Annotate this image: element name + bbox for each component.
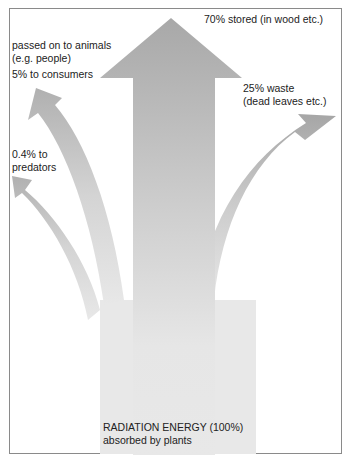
animals-header: passed on to animals (e.g. people) <box>12 39 111 65</box>
waste-arrow <box>196 114 336 305</box>
radiation-source-line1: RADIATION ENERGY (100%) <box>103 421 243 434</box>
animals-header-line1: passed on to animals <box>12 39 111 52</box>
radiation-source-label: RADIATION ENERGY (100%) absorbed by plan… <box>103 421 243 447</box>
predators-label-line1: 0.4% to <box>12 148 56 161</box>
stored-label: 70% stored (in wood etc.) <box>204 13 323 26</box>
predators-label-line2: predators <box>12 161 56 174</box>
consumers-label: 5% to consumers <box>12 68 93 81</box>
animals-header-line2: (e.g. people) <box>12 52 111 65</box>
waste-label-line1: 25% waste <box>243 82 326 95</box>
radiation-source-line2: absorbed by plants <box>103 434 243 447</box>
waste-label: 25% waste (dead leaves etc.) <box>243 82 326 108</box>
waste-label-line2: (dead leaves etc.) <box>243 95 326 108</box>
predators-label: 0.4% to predators <box>12 148 56 174</box>
